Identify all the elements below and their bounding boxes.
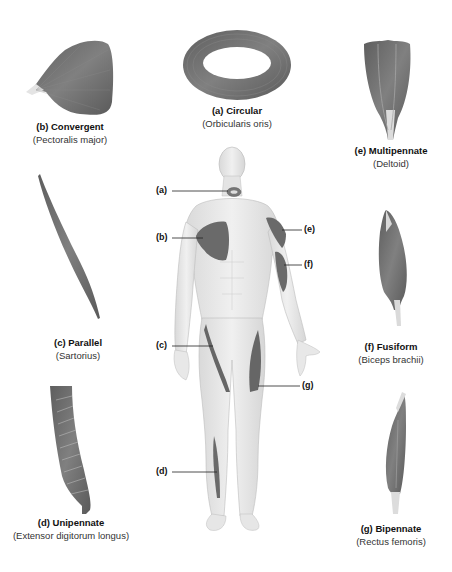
callout-e: (e) (304, 224, 315, 234)
muscle-diagram-illustration (0, 0, 452, 572)
caption-bipennate: (g) Bipennate (Rectus femoris) (330, 522, 452, 548)
callout-a: (a) (156, 185, 167, 195)
caption-unipennate: (d) Unipennate (Extensor digitorum longu… (0, 516, 142, 542)
caption-example: (Biceps brachii) (330, 353, 452, 366)
fusiform-muscle-image (379, 210, 407, 326)
caption-circular: (a) Circular (Orbicularis oris) (167, 104, 307, 130)
caption-parallel: (c) Parallel (Sartorius) (8, 336, 148, 362)
caption-title: (g) Bipennate (330, 522, 452, 535)
caption-example: (Deltoid) (330, 157, 452, 170)
parallel-muscle-image (38, 174, 100, 319)
caption-title: (f) Fusiform (330, 340, 452, 353)
caption-title: (e) Multipennate (330, 144, 452, 157)
callout-b: (b) (156, 232, 168, 242)
convergent-muscle-image (26, 41, 113, 115)
caption-example: (Rectus femoris) (330, 535, 452, 548)
bipennate-muscle-image (386, 392, 406, 514)
caption-convergent: (b) Convergent (Pectoralis major) (0, 120, 140, 146)
caption-example: (Pectoralis major) (0, 133, 140, 146)
caption-example: (Orbicularis oris) (167, 117, 307, 130)
caption-title: (a) Circular (167, 104, 307, 117)
circular-muscle-image (183, 30, 291, 100)
callout-g: (g) (302, 380, 314, 390)
caption-multipennate: (e) Multipennate (Deltoid) (330, 144, 452, 170)
callout-f: (f) (304, 259, 313, 269)
caption-example: (Extensor digitorum longus) (0, 529, 142, 542)
multipennate-muscle-image (364, 40, 411, 140)
caption-title: (c) Parallel (8, 336, 148, 349)
callout-d: (d) (156, 466, 168, 476)
caption-title: (b) Convergent (0, 120, 140, 133)
callout-c: (c) (156, 340, 167, 350)
unipennate-muscle-image (50, 386, 91, 514)
caption-fusiform: (f) Fusiform (Biceps brachii) (330, 340, 452, 366)
human-body-figure (174, 147, 320, 530)
caption-example: (Sartorius) (8, 349, 148, 362)
caption-title: (d) Unipennate (0, 516, 142, 529)
